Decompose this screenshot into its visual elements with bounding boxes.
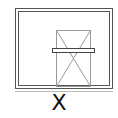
symbol-label: X xyxy=(0,92,118,114)
inner-box xyxy=(57,31,91,87)
crossbar xyxy=(53,49,95,53)
